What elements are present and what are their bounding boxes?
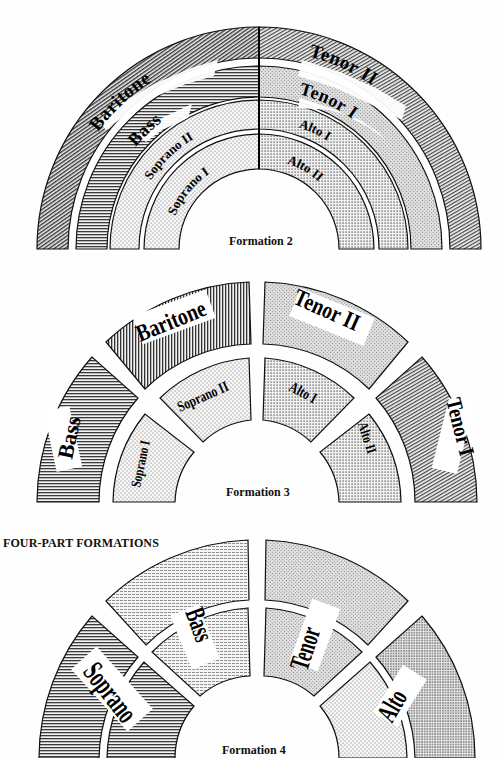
caption-formation-3: Formation 3 bbox=[226, 485, 290, 499]
choir-formations-diagram: Baritone Tenor II Bass Tenor I Soprano I… bbox=[0, 0, 501, 758]
formation-3: Bass Baritone Tenor II Tenor I Soprano I… bbox=[37, 282, 479, 502]
caption-formation-2: Formation 2 bbox=[229, 234, 293, 248]
section-heading-four-part-formations: FOUR-PART FORMATIONS bbox=[3, 536, 159, 551]
section-soprano-i bbox=[113, 414, 194, 502]
caption-formation-4: Formation 4 bbox=[222, 743, 286, 757]
formation-2: Baritone Tenor II Bass Tenor I Soprano I… bbox=[37, 27, 481, 249]
formation-4: Soprano Bass Tenor Alto Formation 4 bbox=[39, 540, 475, 758]
